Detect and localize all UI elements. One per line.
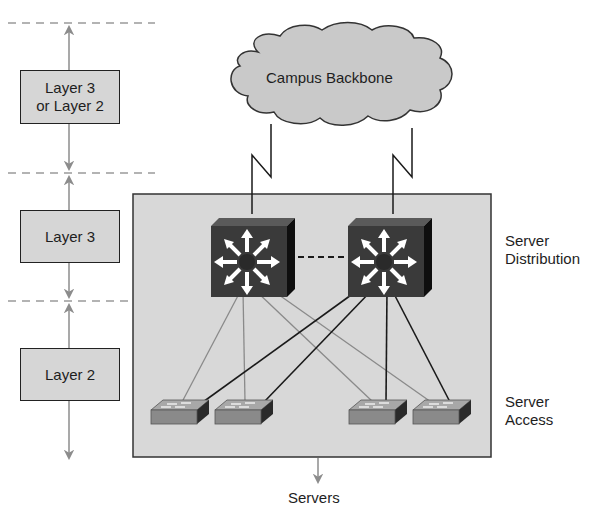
server-access-label: Server Access (505, 393, 553, 429)
layer-box-backbone-line2: or Layer 2 (36, 97, 104, 115)
multilayer-switch-1[interactable] (211, 218, 295, 297)
access-switch-3[interactable] (349, 400, 407, 424)
server-access-line1: Server (505, 393, 553, 411)
cloud-label: Campus Backbone (266, 69, 393, 87)
layer-box-backbone-line1: Layer 3 (36, 79, 104, 97)
layer-box-distribution-label: Layer 3 (45, 228, 95, 246)
layer-box-access: Layer 2 (20, 348, 120, 401)
layer-box-access-label: Layer 2 (45, 366, 95, 384)
server-distribution-line1: Server (505, 232, 580, 250)
servers-label: Servers (288, 489, 340, 507)
multilayer-switch-2[interactable] (348, 218, 432, 297)
server-distribution-line2: Distribution (505, 250, 580, 268)
access-switch-4[interactable] (413, 400, 471, 424)
server-access-line2: Access (505, 411, 553, 429)
access-switch-1[interactable] (151, 400, 209, 424)
layer-box-distribution: Layer 3 (20, 210, 120, 263)
access-switch-2[interactable] (215, 400, 273, 424)
layer-box-backbone: Layer 3 or Layer 2 (20, 70, 120, 124)
server-distribution-label: Server Distribution (505, 232, 580, 268)
